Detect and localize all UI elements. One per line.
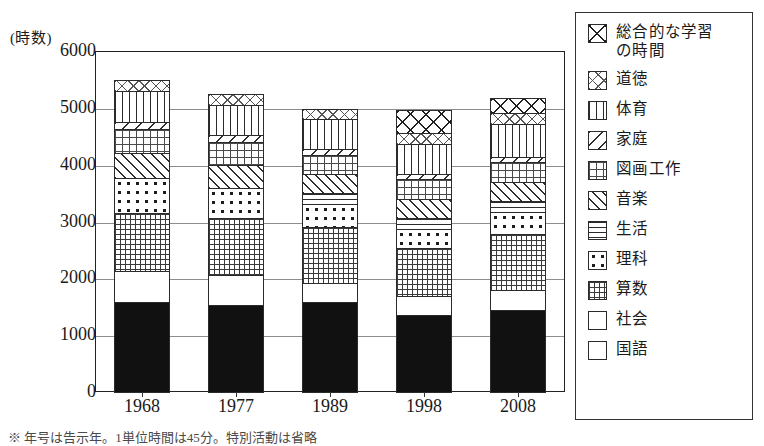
y-tick-label: 4000 <box>16 154 96 175</box>
bar-segment-国語-1968 <box>114 302 170 393</box>
legend-item-社会[interactable]: 社会 <box>588 309 752 330</box>
bar-segment-社会-1977 <box>208 275 264 307</box>
x-tickmark <box>518 392 519 397</box>
bar-1968 <box>114 80 170 392</box>
dense-diagonal-swatch <box>588 191 607 210</box>
bar-segment-体育-2008 <box>490 124 546 158</box>
bar-segment-音楽-2008 <box>490 182 546 202</box>
legend-item-図画工作[interactable]: 図画工作 <box>588 159 752 180</box>
legend-item-生活[interactable]: 生活 <box>588 219 752 240</box>
fine-crosshatch-swatch <box>588 71 607 90</box>
bar-segment-国語-1977 <box>208 305 264 393</box>
x-tickmark <box>142 392 143 397</box>
legend-item-label: 社会 <box>616 309 649 328</box>
bar-segment-音楽-1968 <box>114 153 170 179</box>
bar-segment-体育-1998 <box>396 144 452 175</box>
legend-item-label: 総合的な学習 の時間 <box>616 22 714 60</box>
bar-segment-音楽-1998 <box>396 199 452 219</box>
bar-segment-理科-1989 <box>302 204 358 228</box>
y-tick-label: 2000 <box>16 267 96 288</box>
bar-segment-音楽-1989 <box>302 174 358 194</box>
bar-segment-国語-2008 <box>490 310 546 393</box>
y-tick-label: 6000 <box>16 40 96 61</box>
x-tick-label-1998: 1998 <box>377 396 471 417</box>
bar-segment-図画工作-2008 <box>490 162 546 182</box>
bar-segment-体育-1977 <box>208 105 264 137</box>
bar-segment-音楽-1977 <box>208 165 264 189</box>
legend-item-label: 算数 <box>616 279 649 298</box>
legend-item-label: 理科 <box>616 249 649 268</box>
legend-item-理科[interactable]: 理科 <box>588 249 752 270</box>
legend-item-音楽[interactable]: 音楽 <box>588 189 752 210</box>
diagonal-lines-swatch <box>588 131 607 150</box>
bar-segment-社会-1989 <box>302 283 358 303</box>
legend-item-算数[interactable]: 算数 <box>588 279 752 300</box>
crosshatch-x-swatch <box>588 24 607 43</box>
legend-item-label: 道徳 <box>616 69 649 88</box>
bar-segment-図画工作-1989 <box>302 155 358 175</box>
legend-item-体育[interactable]: 体育 <box>588 99 752 120</box>
bar-segment-図画工作-1977 <box>208 142 264 166</box>
bar-segment-国語-1998 <box>396 315 452 393</box>
legend-item-総合的な学習の時間[interactable]: 総合的な学習 の時間 <box>588 22 752 60</box>
bar-segment-図画工作-1998 <box>396 179 452 199</box>
bar-segment-理科-1968 <box>114 178 170 214</box>
bar-1977 <box>208 94 264 392</box>
bar-segment-算数-2008 <box>490 234 546 291</box>
bar-segment-算数-1989 <box>302 227 358 284</box>
fine-grid-swatch <box>588 161 607 180</box>
bar-1998 <box>396 110 452 392</box>
bar-2008 <box>490 98 546 392</box>
y-tick-label: 0 <box>16 381 96 402</box>
y-tick-label: 1000 <box>16 324 96 345</box>
bar-segment-社会-1968 <box>114 271 170 303</box>
horizontal-lines-swatch <box>588 221 607 240</box>
bar-1989 <box>302 109 358 392</box>
x-tickmark <box>330 392 331 397</box>
legend-item-label: 図画工作 <box>616 159 681 178</box>
bar-segment-社会-2008 <box>490 290 546 311</box>
bar-segment-理科-1998 <box>396 229 452 249</box>
x-tick-label-1977: 1977 <box>189 396 283 417</box>
x-tick-label-1989: 1989 <box>283 396 377 417</box>
legend-item-家庭[interactable]: 家庭 <box>588 129 752 150</box>
bar-segment-図画工作-1968 <box>114 129 170 155</box>
legend-item-label: 家庭 <box>616 129 649 148</box>
y-tick-label: 5000 <box>16 97 96 118</box>
grid-swatch <box>588 281 607 300</box>
solid-black-swatch <box>588 341 607 360</box>
x-tickmark <box>424 392 425 397</box>
bar-segment-算数-1968 <box>114 213 170 273</box>
bar-segment-総合的な学習の時間-2008 <box>490 98 546 114</box>
bar-segment-算数-1998 <box>396 248 452 297</box>
legend-item-label: 体育 <box>616 99 649 118</box>
bar-segment-理科-2008 <box>490 212 546 235</box>
bar-segment-理科-1977 <box>208 188 264 220</box>
bars-layer <box>95 51 565 392</box>
bar-segment-体育-1989 <box>302 119 358 150</box>
bar-segment-体育-1968 <box>114 91 170 123</box>
legend-item-label: 生活 <box>616 219 649 238</box>
dots-swatch <box>588 251 607 270</box>
bar-segment-社会-1998 <box>396 296 452 316</box>
bar-segment-総合的な学習の時間-1998 <box>396 110 452 134</box>
x-tickmark <box>236 392 237 397</box>
legend-item-道徳[interactable]: 道徳 <box>588 69 752 90</box>
x-tick-label-2008: 2008 <box>471 396 565 417</box>
legend-item-label: 音楽 <box>616 189 649 208</box>
bar-segment-算数-1977 <box>208 218 264 275</box>
bar-segment-国語-1989 <box>302 302 358 393</box>
blank-swatch <box>588 311 607 330</box>
chart-footnote: ※ 年号は告示年。1単位時間は45分。特別活動は省略 <box>8 427 317 446</box>
legend-item-label: 国語 <box>616 339 649 358</box>
chart-legend: 総合的な学習 の時間道徳体育家庭図画工作音楽生活理科算数社会国語 <box>575 12 753 420</box>
legend-item-国語[interactable]: 国語 <box>588 339 752 360</box>
x-tick-label-1968: 1968 <box>95 396 189 417</box>
y-tick-label: 3000 <box>16 211 96 232</box>
vertical-lines-swatch <box>588 101 607 120</box>
